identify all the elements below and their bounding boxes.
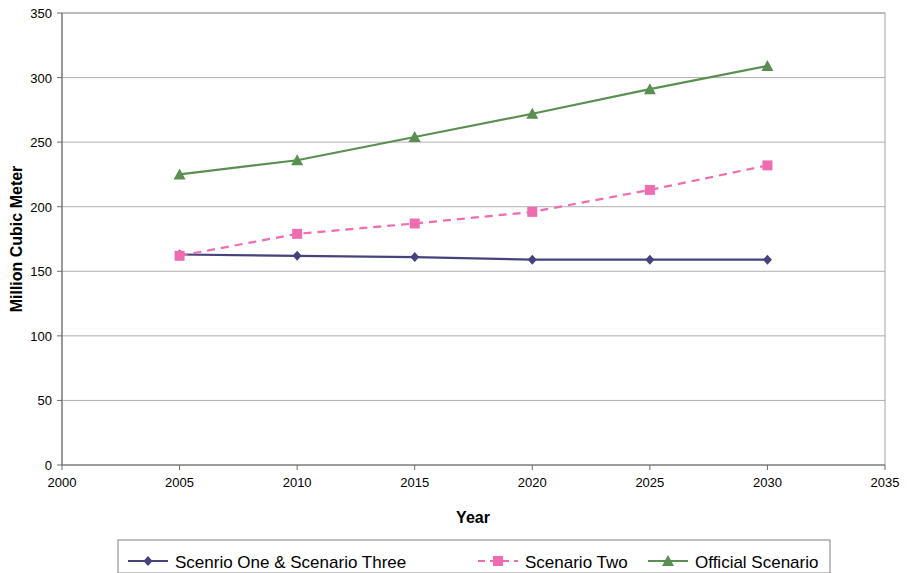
y-axis-tick-labels: 050100150200250300350 — [30, 6, 52, 473]
data-point — [762, 160, 772, 170]
x-axis-title: Year — [456, 509, 490, 526]
x-tick-label: 2010 — [283, 475, 312, 490]
x-tick-label: 2035 — [871, 475, 900, 490]
x-tick-label: 2025 — [635, 475, 664, 490]
legend-label: Official Scenario — [695, 553, 818, 572]
x-tick-label: 2005 — [165, 475, 194, 490]
x-tick-label: 2015 — [400, 475, 429, 490]
data-point — [645, 185, 655, 195]
x-tick-label: 2020 — [518, 475, 547, 490]
x-axis-tick-labels: 20002005201020152020202520302035 — [48, 475, 900, 490]
data-point — [175, 251, 185, 261]
data-point — [410, 219, 420, 229]
y-tick-label: 350 — [30, 6, 52, 21]
plot-area-background — [62, 13, 885, 465]
x-tick-label: 2030 — [753, 475, 782, 490]
legend-label: Scenario Two — [525, 553, 628, 572]
line-chart: 050100150200250300350 200020052010201520… — [0, 0, 907, 573]
y-axis-title: Million Cubic Meter — [8, 166, 25, 313]
y-tick-label: 200 — [30, 200, 52, 215]
legend-marker-icon — [493, 556, 503, 566]
data-point — [527, 207, 537, 217]
y-tick-label: 300 — [30, 71, 52, 86]
y-tick-label: 150 — [30, 264, 52, 279]
chart-canvas: 050100150200250300350 200020052010201520… — [0, 0, 907, 573]
y-tick-label: 250 — [30, 135, 52, 150]
y-axis-tick-marks — [57, 13, 62, 465]
y-tick-label: 50 — [38, 393, 52, 408]
y-tick-label: 100 — [30, 329, 52, 344]
data-point — [292, 229, 302, 239]
legend-label: Scenrio One & Scenario Three — [175, 553, 406, 572]
x-tick-label: 2000 — [48, 475, 77, 490]
y-tick-label: 0 — [45, 458, 52, 473]
x-axis-tick-marks — [62, 465, 885, 470]
